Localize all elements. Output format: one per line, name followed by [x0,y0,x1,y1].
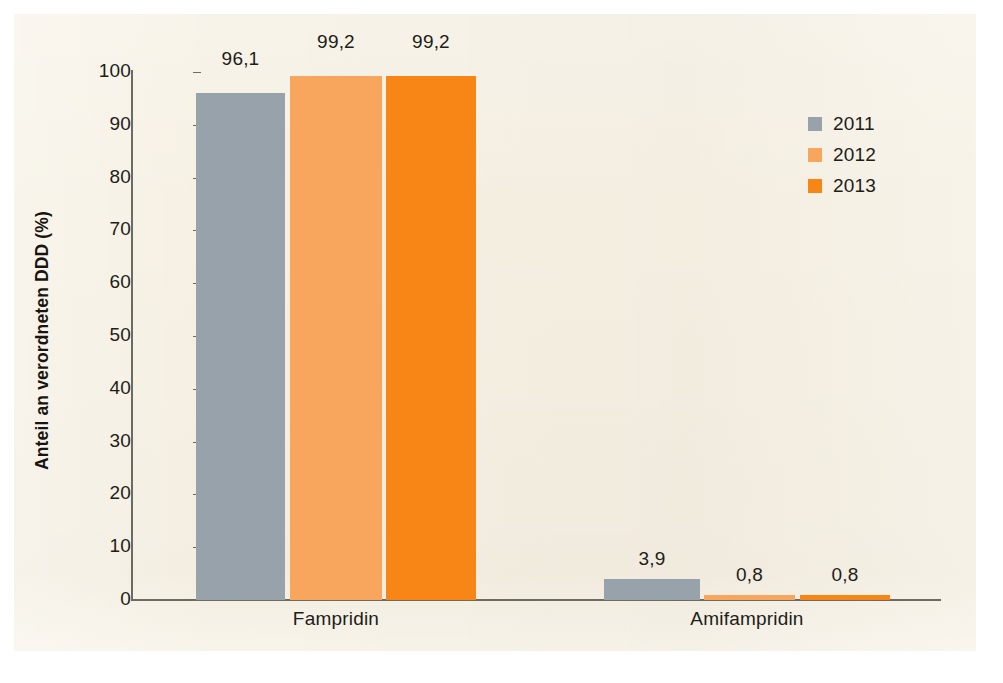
bar-fampridin-2013[interactable] [386,76,476,600]
y-axis-title: Anteil an verordneten DDD (%) [32,191,53,491]
legend-label: 2012 [833,144,876,166]
legend-item-2012[interactable]: 2012 [808,139,876,170]
y-tick-label: 0 [91,588,131,610]
legend-item-2011[interactable]: 2011 [808,108,876,139]
bar-value-label: 99,2 [290,31,382,53]
legend-item-2013[interactable]: 2013 [808,170,876,201]
bar-fampridin-2012[interactable] [290,76,382,600]
legend-label: 2013 [833,175,876,197]
y-tick-label: 30 [91,430,131,452]
legend-label: 2011 [833,113,875,135]
y-tick-label: 100 [91,60,131,82]
bar-value-label: 0,8 [800,564,890,586]
bar-amifampridin-2012[interactable] [704,595,795,600]
y-tick-label: 60 [91,271,131,293]
bar-amifampridin-2013[interactable] [800,595,890,600]
category-label-amifampridin: Amifampridin [604,608,890,630]
bar-value-label: 0,8 [704,564,795,586]
y-tick-label: 90 [91,113,131,135]
bar-amifampridin-2011[interactable] [604,579,700,600]
y-tick-label: 50 [91,324,131,346]
bar-value-label: 99,2 [386,31,476,53]
legend-swatch-icon [808,179,822,193]
y-tick-label: 70 [91,218,131,240]
y-tick-label: 80 [91,166,131,188]
legend-swatch-icon [808,117,822,131]
bar-value-label: 96,1 [196,48,285,70]
bar-fampridin-2011[interactable] [196,93,285,600]
category-label-fampridin: Fampridin [196,608,476,630]
legend: 2011 2012 2013 [808,108,876,201]
legend-swatch-icon [808,148,822,162]
y-tick-label: 40 [91,377,131,399]
bar-chart: Anteil an verordneten DDD (%) 100 90 80 … [0,0,1003,683]
bar-value-label: 3,9 [604,548,700,570]
y-tick-label: 10 [91,535,131,557]
y-tick-label: 20 [91,482,131,504]
y-axis-line [131,70,133,601]
clipped-caption-strip [0,651,1003,683]
